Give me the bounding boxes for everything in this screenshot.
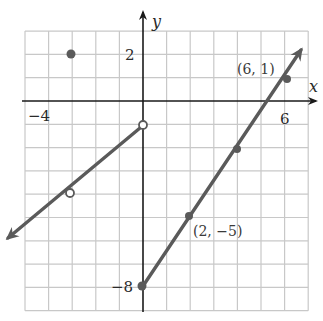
- annotation-2-neg5: (2, −5): [193, 223, 242, 239]
- x-axis-label: x: [309, 77, 318, 96]
- open-point-0-neg1: [139, 121, 147, 129]
- left-piece-line: [8, 128, 140, 238]
- piecewise-graph: x y −4 6 2 −8 (6, 1) (2, −5): [0, 0, 323, 321]
- filled-point-neg3-2: [67, 50, 76, 59]
- y-axis-label: y: [151, 12, 162, 31]
- filled-point-0-neg8: [138, 282, 147, 291]
- filled-point-2-neg5: [185, 212, 193, 220]
- tick-label-y-neg8: −8: [111, 278, 133, 296]
- filled-point-4-neg2: [233, 145, 241, 153]
- annotation-6-1: (6, 1): [237, 61, 275, 77]
- tick-label-x-6: 6: [280, 110, 290, 128]
- tick-label-y-2: 2: [125, 46, 135, 64]
- filled-point-6-1: [283, 75, 291, 83]
- tick-label-x-neg4: −4: [28, 107, 50, 125]
- open-point-neg3-neg4: [66, 189, 74, 197]
